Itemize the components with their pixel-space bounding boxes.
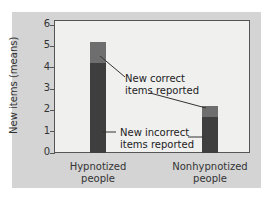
y-tick-6: 6 (38, 18, 50, 29)
y-tick-2: 2 (38, 103, 50, 114)
x-category-line: Hypnotized (68, 161, 128, 173)
y-tick-1: 1 (38, 125, 50, 136)
y-tick-4: 4 (38, 61, 50, 72)
y-tickmark (50, 153, 55, 154)
x-category-nonhypnotized: Nonhypnotized people (170, 161, 250, 185)
bar-segment-incorrect (202, 117, 218, 153)
y-tick-3: 3 (38, 82, 50, 93)
y-tick-5: 5 (38, 39, 50, 50)
x-category-line: Nonhypnotized (170, 161, 250, 173)
callout-correct: New correct items reported (125, 73, 199, 97)
callout-correct-line2: items reported (125, 85, 199, 97)
x-category-hypnotized: Hypnotized people (68, 161, 128, 185)
bar-segment-incorrect (90, 63, 106, 153)
x-category-line: people (68, 173, 128, 185)
y-axis-label: New items (means) (8, 44, 19, 134)
callout-incorrect-line1: New incorrect (120, 127, 194, 139)
bar-segment-correct (202, 106, 218, 117)
bar-nonhypnotized (202, 106, 218, 153)
callout-incorrect: New incorrect items reported (120, 127, 194, 151)
callout-correct-line1: New correct (125, 73, 199, 85)
bar-hypnotized (90, 42, 106, 153)
x-category-line: people (170, 173, 250, 185)
bar-segment-correct (90, 42, 106, 63)
y-tick-0: 0 (38, 146, 50, 157)
callout-incorrect-line2: items reported (120, 139, 194, 151)
